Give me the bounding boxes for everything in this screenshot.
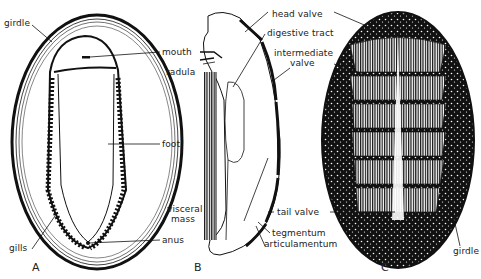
label-intermediate-valve-line1: intermediate	[274, 48, 333, 58]
label-intermediate-valve-line2: valve	[290, 58, 315, 68]
label-articulamentum: articulamentum	[264, 239, 337, 249]
chiton-diagram	[0, 0, 481, 279]
label-visceral-mass-line2: mass	[171, 214, 195, 224]
label-visceral-mass-line1: visceral	[167, 204, 203, 214]
label-anus: anus	[162, 235, 184, 245]
panel-c-dorsal-view	[322, 12, 474, 268]
panel-label-b: B	[194, 261, 202, 274]
panel-label-a: A	[32, 261, 40, 274]
label-girdle-c: girdle	[453, 246, 479, 256]
label-gills: gills	[9, 243, 27, 253]
label-foot: foot	[162, 139, 180, 149]
panel-a-ventral-view	[12, 15, 182, 269]
label-radula: radula	[166, 67, 195, 77]
label-tegmentum: tegmentum	[272, 228, 326, 238]
panel-label-c: C	[381, 261, 389, 274]
label-girdle-a: girdle	[4, 18, 30, 28]
label-head-valve: head valve	[272, 9, 323, 19]
label-digestive-tract: digestive tract	[267, 28, 334, 38]
label-tail-valve: tail valve	[277, 207, 319, 217]
label-mouth: mouth	[162, 47, 192, 57]
